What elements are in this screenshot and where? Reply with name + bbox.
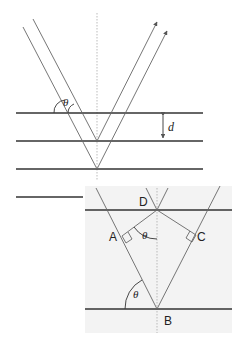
incident-ray-2 <box>23 27 97 169</box>
theta-label-B: θ <box>133 288 139 300</box>
incident-ray-1 <box>33 19 97 141</box>
point-label-D: D <box>139 195 148 209</box>
angle-arc-2 <box>68 104 74 113</box>
theta-label-D: θ <box>142 229 148 241</box>
theta-label-top: θ <box>63 96 69 108</box>
inset-panel <box>85 186 232 333</box>
reflected-ray-2 <box>97 31 167 169</box>
point-label-C: C <box>197 230 206 244</box>
spacing-label-d: d <box>168 120 175 134</box>
point-label-B: B <box>164 314 172 328</box>
bragg-diagram: θ d θ θ D A C B <box>0 0 247 347</box>
reflected-ray-1 <box>97 22 157 141</box>
point-label-A: A <box>109 230 117 244</box>
